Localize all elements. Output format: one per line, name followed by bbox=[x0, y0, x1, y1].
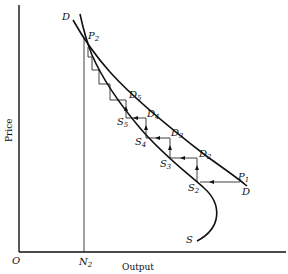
supply-label: S bbox=[186, 234, 193, 245]
x-axis-label: Output bbox=[122, 262, 154, 272]
point-d3-label: D3 bbox=[170, 127, 184, 140]
point-d5-label: D5 bbox=[128, 89, 142, 102]
point-s4-label: S4 bbox=[135, 136, 146, 149]
demand-label-top: D bbox=[61, 11, 70, 22]
point-d2-label: D2 bbox=[198, 148, 212, 161]
point-d4-label: D4 bbox=[146, 108, 160, 121]
n2-tick-label: N2 bbox=[78, 256, 93, 269]
supply-curve bbox=[80, 14, 217, 241]
demand-label-end: D bbox=[241, 186, 250, 197]
y-axis-label: Price bbox=[4, 118, 14, 142]
point-p2-label: P2 bbox=[87, 30, 100, 43]
origin-label: O bbox=[12, 255, 20, 266]
point-s3-label: S3 bbox=[160, 158, 172, 171]
cobweb-diagram: D P2 D5 D4 D3 D2 S5 S4 S3 S2 P1 D S O N2… bbox=[0, 0, 288, 274]
point-s2-label: S2 bbox=[188, 182, 200, 195]
